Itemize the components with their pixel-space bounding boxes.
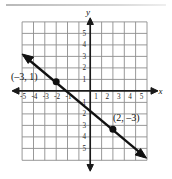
graph-figure: -5 -4 -3 -2 -1 1 2 3 4 5 5 4 3 2 1 1 2 3… (0, 0, 172, 179)
x-tick-2: 2 (106, 94, 110, 101)
point-label-a: (–3, 1) (11, 72, 38, 82)
point-label-b: (2, –3) (113, 113, 140, 123)
y-tick--5: 5 (82, 146, 86, 153)
coordinate-plane (0, 0, 172, 179)
x-tick--4: -4 (31, 94, 37, 101)
y-tick--4: 4 (82, 134, 86, 141)
data-point-marker-a (53, 78, 60, 85)
x-tick-4: 4 (128, 94, 132, 101)
x-tick--1: -1 (66, 94, 72, 101)
y-tick--2: 2 (82, 111, 86, 118)
x-tick-5: 5 (140, 94, 144, 101)
y-tick-5: 5 (82, 31, 86, 38)
x-tick-3: 3 (117, 94, 121, 101)
y-tick-3: 3 (82, 54, 86, 61)
data-point-marker-b (109, 126, 116, 133)
y-tick--3: 3 (82, 123, 86, 130)
x-tick-1: 1 (94, 94, 98, 101)
y-axis-label: y (86, 8, 90, 17)
x-axis-label: x (159, 87, 163, 96)
x-tick--3: -3 (43, 94, 49, 101)
y-tick-1: 1 (82, 77, 86, 84)
y-tick-2: 2 (82, 65, 86, 72)
x-tick--5: -5 (20, 94, 26, 101)
y-tick--1: 1 (82, 100, 86, 107)
y-tick-4: 4 (82, 42, 86, 49)
x-tick--2: -2 (54, 94, 60, 101)
